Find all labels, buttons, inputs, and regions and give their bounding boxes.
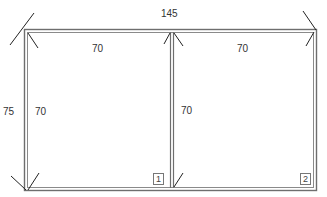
frame-drawing: [0, 0, 327, 197]
panel-2-width-label: 70: [237, 44, 248, 54]
overall-height-label: 75: [3, 107, 14, 117]
panel-1-height-label: 70: [35, 107, 46, 117]
panel-1-number-badge: 1: [153, 173, 164, 185]
panel-1-width-label: 70: [92, 44, 103, 54]
panel-2-number-badge: 2: [300, 173, 311, 185]
panel-2-height-label: 70: [181, 106, 192, 116]
miter-ticks: [10, 11, 316, 190]
center-mullion: [171, 32, 174, 188]
overall-width-label: 145: [161, 9, 178, 19]
